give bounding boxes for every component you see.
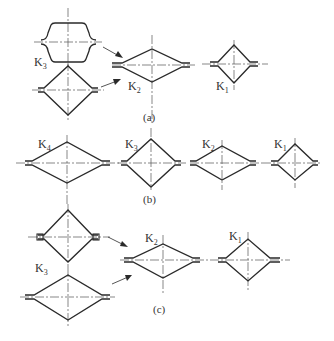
b-k1-label: K1	[274, 137, 287, 153]
c-arrows	[108, 237, 132, 284]
arrow-right-icon	[125, 275, 132, 281]
a-k1-label: K1	[216, 79, 229, 95]
b-k1-pass	[262, 138, 322, 188]
b-k4-label: K4	[38, 137, 51, 153]
c-k2-label: K2	[145, 231, 158, 247]
a-k3-barrel-pass	[34, 8, 102, 66]
c-k1-label: K1	[229, 229, 242, 245]
panel-c: K3 K2 K1 (c	[20, 204, 290, 328]
caption-a: (a)	[143, 111, 156, 124]
arrow-right-icon	[115, 51, 123, 58]
caption-c: (c)	[153, 303, 166, 316]
c-k1-pass	[210, 232, 290, 292]
b-k4-pass	[16, 135, 120, 205]
b-k2-label: K2	[202, 137, 215, 153]
caption-b: (b)	[143, 193, 156, 206]
c-k3-label: K3	[35, 261, 48, 277]
panel-b: K4 K3 K2 K1 (b)	[16, 128, 322, 206]
arrow-right-icon	[120, 241, 128, 247]
arrow-right-icon	[113, 79, 121, 85]
c-k3-diamond-pass	[28, 204, 110, 268]
b-k3-label: K3	[125, 137, 138, 153]
a-k1-pass	[202, 40, 268, 90]
c-k3-flat-pass	[20, 268, 115, 328]
b-k2-pass	[190, 140, 262, 190]
c-k2-pass	[120, 235, 208, 295]
a-k3-label: K3	[34, 55, 47, 71]
a-k2-label: K2	[128, 79, 141, 95]
panel-a: K3 K2 K1 (a)	[32, 8, 268, 125]
roll-pass-diagram: K3 K2 K1 (a)	[0, 0, 334, 341]
